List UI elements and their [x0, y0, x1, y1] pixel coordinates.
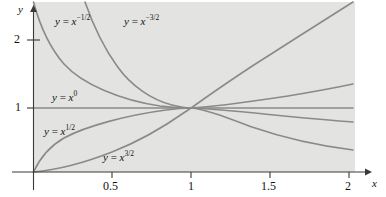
- curve-label-exponent: 1/2: [66, 123, 76, 132]
- x-tick-label-1.5: 1.5: [261, 180, 276, 192]
- curve-label-x-pow-neg-1-2: y = x−1/2: [55, 16, 90, 27]
- curve-label-lhs: y: [103, 151, 108, 163]
- y-axis-name: y: [18, 4, 23, 15]
- curve-label-x-pow-1-2: y = x1/2: [44, 126, 75, 137]
- curve-label-equals: =: [63, 15, 69, 27]
- curve-label-lhs: y: [44, 125, 49, 137]
- curve-label-lhs: y: [55, 15, 60, 27]
- curve-label-equals: =: [52, 125, 58, 137]
- curve-label-lhs: y: [52, 91, 57, 103]
- x-tick-label-2: 2: [345, 180, 351, 192]
- curve-label-exponent: 3/2: [125, 149, 135, 158]
- plot-panel: [33, 2, 355, 172]
- y-tick-label-2: 2: [14, 33, 20, 45]
- curve-label-lhs: y: [124, 15, 129, 27]
- curve-label-exponent: −1/2: [77, 13, 91, 22]
- curve-label-equals: =: [60, 91, 66, 103]
- x-tick-label-0.5: 0.5: [103, 180, 118, 192]
- curve-label-equals: =: [111, 151, 117, 163]
- power-functions-figure: y x 2 1 0.5 1 1.5 2 y = x−1/2 y = x−3/2 …: [0, 0, 386, 197]
- x-axis-arrow-icon: [365, 169, 372, 176]
- y-tick-label-1: 1: [15, 101, 21, 113]
- x-axis-name: x: [372, 178, 377, 189]
- curve-label-equals: =: [132, 15, 138, 27]
- x-tick-label-1: 1: [188, 180, 194, 192]
- curve-label-exponent: −3/2: [146, 13, 160, 22]
- curve-label-x-pow-0: y = x0: [52, 92, 77, 103]
- curve-label-x-pow-3-2: y = x3/2: [103, 152, 134, 163]
- curve-label-x-pow-neg-3-2: y = x−3/2: [124, 16, 159, 27]
- curve-label-exponent: 0: [74, 89, 78, 98]
